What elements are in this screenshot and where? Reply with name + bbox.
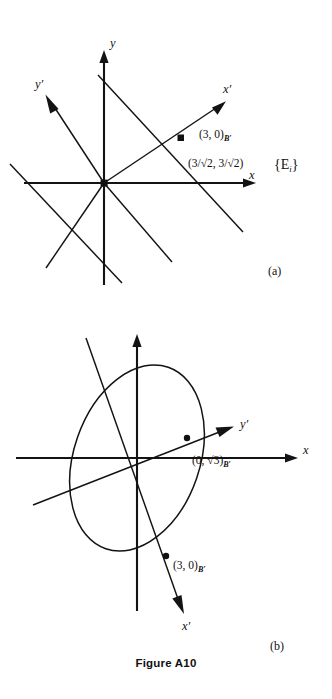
x-prime-axis-label-b: x′	[181, 619, 191, 633]
point-label-secondary-a: (3/√2, 3/√2) {Ei}	[188, 157, 298, 174]
point-label-text-a: (3, 0)	[199, 128, 224, 141]
panel-tag-a: (a)	[268, 264, 281, 278]
panel-b-diagram: x y y′ x′ (0, √3)B′ (3, 0)B′ (b)	[0, 330, 332, 670]
y-axis-arrowhead-a	[99, 50, 108, 63]
ellipse-point-y-text-b: (0, √3)	[192, 454, 223, 467]
figure-a10: x y x′ y′ (3, 0)B′ (3/√2, 3/√2) {Ei} (a)	[0, 0, 332, 699]
panel-a-diagram: x y x′ y′ (3, 0)B′ (3/√2, 3/√2) {Ei} (a)	[0, 0, 332, 330]
x-prime-axis-arrowhead-a	[212, 101, 226, 115]
point-label-standard-basis-a: (3/√2, 3/√2)	[188, 157, 244, 170]
figure-caption: Figure A10	[0, 657, 332, 669]
basis-open-brace-a: {E	[274, 157, 289, 172]
y-prime-negative-ray-a	[104, 183, 172, 262]
ellipse-point-y-marker-b	[184, 435, 190, 441]
svg-text:(3, 0)B′: (3, 0)B′	[199, 128, 232, 143]
x-prime-axis-arrowhead-b	[172, 595, 184, 614]
ellipse-point-y-subscript-b: B′	[222, 460, 231, 469]
origin-marker-a	[101, 180, 108, 187]
y-prime-axis-label-b: y′	[238, 417, 249, 431]
x-axis-b	[16, 453, 298, 462]
level-line-through-point-a	[98, 75, 243, 232]
y-prime-axis-arrowhead-b	[216, 427, 235, 438]
marked-point-a	[178, 135, 185, 142]
x-axis-arrowhead-b	[285, 453, 298, 462]
ellipse-point-x-subscript-b: B′	[197, 565, 206, 574]
y-prime-axis-a	[46, 95, 105, 184]
x-prime-axis-b	[86, 338, 184, 614]
basis-set-label-a: {Ei}	[274, 157, 298, 174]
x-axis-label-a: x	[248, 168, 255, 182]
x-axis-a	[24, 178, 256, 187]
ellipse-point-y-label-b: (0, √3)B′	[192, 454, 231, 469]
y-axis-arrowhead-b	[132, 334, 141, 347]
y-prime-axis-label-a: y′	[33, 77, 44, 91]
x-prime-axis-a	[104, 101, 226, 183]
ellipse-point-x-label-b: (3, 0)B′	[173, 559, 206, 574]
basis-close-brace-a: }	[292, 157, 299, 172]
x-prime-axis-label-a: x′	[222, 82, 232, 96]
point-label-primary-a: (3, 0)B′	[199, 128, 232, 143]
point-label-subscript-a: B′	[223, 134, 232, 143]
y-axis-label-a: y	[108, 36, 116, 50]
panel-tag-b: (b)	[270, 639, 284, 653]
ellipse-point-x-marker-b	[163, 553, 169, 559]
ellipse-point-x-text-b: (3, 0)	[173, 559, 198, 572]
x-axis-label-b: x	[302, 443, 309, 457]
